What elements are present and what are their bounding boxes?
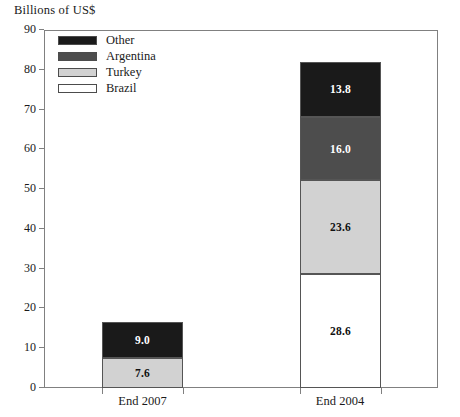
- y-tick-mark: [39, 387, 44, 388]
- y-tick-label: 40: [24, 221, 36, 235]
- y-tick-mark: [39, 268, 44, 269]
- bar-segment: 7.6: [102, 358, 183, 388]
- legend-swatch: [58, 84, 97, 93]
- y-tick-label: 0: [30, 380, 36, 394]
- y-tick-label: 30: [24, 261, 36, 275]
- bar-value-label: 13.8: [330, 83, 351, 95]
- y-tick-mark: [39, 148, 44, 149]
- x-axis-label: End 2004: [316, 393, 364, 409]
- y-tick-label: 10: [24, 340, 36, 354]
- y-tick-label: 90: [24, 22, 36, 36]
- x-tick-mark: [183, 388, 184, 394]
- y-tick-label: 70: [24, 102, 36, 116]
- legend-label: Argentina: [106, 49, 156, 64]
- y-tick-label: 20: [24, 300, 36, 314]
- y-tick-mark: [39, 307, 44, 308]
- x-tick-mark: [300, 388, 301, 394]
- bar-segment: 28.6: [300, 274, 381, 388]
- legend-label: Other: [106, 33, 134, 48]
- legend-item[interactable]: Argentina: [58, 49, 183, 64]
- y-tick-label: 60: [24, 141, 36, 155]
- x-tick-mark: [381, 388, 382, 394]
- legend-item[interactable]: Other: [58, 33, 183, 48]
- legend-swatch: [58, 52, 97, 61]
- bar-segment: 13.8: [300, 62, 381, 117]
- y-tick-mark: [39, 29, 44, 30]
- bar-segment: 9.0: [102, 322, 183, 358]
- y-axis: 0102030405060708090: [0, 0, 44, 417]
- bar-value-label: 16.0: [330, 143, 351, 155]
- legend-label: Turkey: [106, 65, 142, 80]
- y-tick-mark: [39, 188, 44, 189]
- y-tick-mark: [39, 228, 44, 229]
- bar-value-label: 9.0: [135, 334, 150, 346]
- legend-item[interactable]: Brazil: [58, 81, 183, 96]
- y-tick-mark: [39, 347, 44, 348]
- y-tick-mark: [39, 109, 44, 110]
- legend-swatch: [58, 68, 97, 77]
- x-axis-label: End 2007: [118, 393, 166, 409]
- bar-value-label: 28.6: [330, 325, 351, 337]
- legend-label: Brazil: [106, 81, 137, 96]
- bar-segment: 16.0: [300, 117, 381, 181]
- legend-item[interactable]: Turkey: [58, 65, 183, 80]
- bar-segment: 23.6: [300, 180, 381, 274]
- bar-value-label: 23.6: [330, 221, 351, 233]
- chart-legend: OtherArgentinaTurkeyBrazil: [58, 33, 183, 97]
- y-tick-label: 50: [24, 181, 36, 195]
- legend-swatch: [58, 36, 97, 45]
- y-tick-label: 80: [24, 62, 36, 76]
- x-tick-mark: [102, 388, 103, 394]
- y-tick-mark: [39, 69, 44, 70]
- bar-value-label: 7.6: [135, 367, 150, 379]
